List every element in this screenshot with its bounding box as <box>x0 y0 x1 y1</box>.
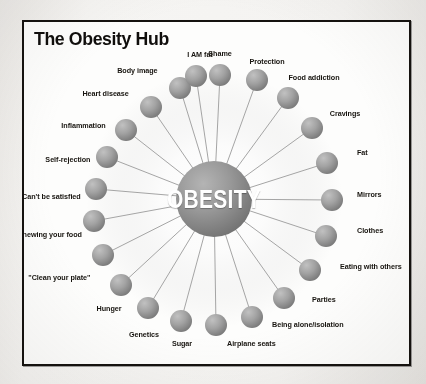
node-sphere <box>209 64 231 86</box>
center-sphere <box>176 161 252 237</box>
node-sphere <box>299 259 321 281</box>
node-label: Airplane seats <box>227 339 276 348</box>
node-sphere <box>246 69 268 91</box>
node-label: Eating with others <box>340 262 402 271</box>
node-label: Heart disease <box>83 89 129 98</box>
node-sphere <box>96 146 118 168</box>
node-label: "Clean your plate" <box>28 273 90 282</box>
node-label: Self-rejection <box>45 155 90 164</box>
node-label: Hunger <box>97 304 122 313</box>
node-sphere <box>316 152 338 174</box>
node-sphere <box>315 225 337 247</box>
node-label: Inflammation <box>62 121 106 130</box>
node-label: Chewing your food <box>22 230 82 239</box>
node-label: Cravings <box>330 109 361 118</box>
node-sphere <box>205 314 227 336</box>
node-sphere <box>170 310 192 332</box>
node-label: Fat <box>357 148 368 157</box>
node-label: Being alone/isolation <box>272 320 344 329</box>
node-sphere <box>273 287 295 309</box>
node-label: Sugar <box>172 339 192 348</box>
node-label: Protection <box>249 57 284 66</box>
hub-diagram <box>24 22 409 364</box>
node-sphere <box>85 178 107 200</box>
node-sphere <box>140 96 162 118</box>
node-sphere <box>321 189 343 211</box>
node-label: Clothes <box>357 226 383 235</box>
node-label: Can't be satisfied <box>22 192 81 201</box>
node-sphere <box>185 65 207 87</box>
node-sphere <box>83 210 105 232</box>
node-label: Body image <box>118 66 158 75</box>
node-sphere <box>277 87 299 109</box>
node-label: I AM fat <box>187 50 212 59</box>
figure-frame: The Obesity Hub OBESITY <box>22 20 411 366</box>
node-label: Food addiction <box>288 73 339 82</box>
spoke-line <box>248 199 323 200</box>
node-sphere <box>110 274 132 296</box>
node-sphere <box>301 117 323 139</box>
node-sphere <box>137 297 159 319</box>
node-label: Parties <box>312 295 336 304</box>
node-sphere <box>115 119 137 141</box>
node-sphere <box>241 306 263 328</box>
node-label: Genetics <box>129 330 159 339</box>
node-sphere <box>92 244 114 266</box>
node-label: Mirrors <box>357 190 382 199</box>
